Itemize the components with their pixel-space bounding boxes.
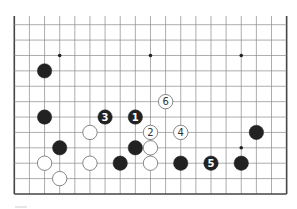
black-stone	[113, 156, 127, 170]
white-stone	[143, 141, 157, 155]
black-stone: 5	[204, 156, 218, 170]
white-stone	[37, 156, 51, 170]
black-stone: 1	[128, 110, 142, 124]
move-number-label: 3	[102, 112, 109, 123]
star-point-icon	[239, 54, 243, 58]
white-stone: 2	[143, 125, 157, 139]
white-stone	[143, 156, 157, 170]
star-point-icon	[58, 54, 62, 58]
caption-fragment	[15, 206, 27, 208]
black-stone	[128, 141, 142, 155]
star-point-icon	[239, 146, 243, 150]
black-stone	[37, 110, 51, 124]
black-stone	[52, 141, 66, 155]
move-number-label: 4	[178, 127, 184, 138]
move-number-label: 5	[208, 158, 215, 169]
white-stone	[52, 171, 66, 185]
black-stone: 3	[98, 110, 112, 124]
move-number-label: 1	[132, 112, 139, 123]
white-stone	[83, 156, 97, 170]
white-stone	[83, 125, 97, 139]
black-stone	[249, 125, 263, 139]
go-board: 316245	[0, 0, 297, 209]
star-point-icon	[149, 54, 153, 58]
black-stone	[37, 64, 51, 78]
black-stone	[174, 156, 188, 170]
move-number-label: 6	[162, 96, 168, 107]
move-number-label: 2	[147, 127, 153, 138]
black-stone	[234, 156, 248, 170]
white-stone: 4	[174, 125, 188, 139]
white-stone: 6	[158, 94, 172, 108]
